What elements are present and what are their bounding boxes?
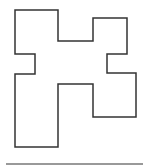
puzzle-outline-shape — [15, 10, 136, 147]
diagram-canvas — [0, 0, 151, 167]
